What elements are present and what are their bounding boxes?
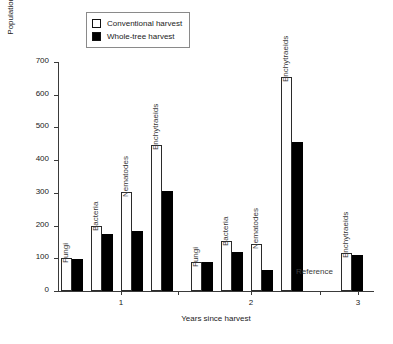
bar-conventional — [221, 241, 232, 291]
y-axis-tick: 400 — [54, 160, 58, 161]
x-axis-tick-label: 1 — [106, 298, 136, 307]
legend-item-conventional: Conventional harvest — [92, 17, 182, 30]
y-axis-tick-label: 400 — [23, 154, 49, 163]
y-axis-tick-label: 0 — [23, 285, 49, 294]
bar-conventional — [251, 244, 262, 291]
y-axis-tick: 0 — [54, 291, 58, 292]
bar-category-label: Bacteria — [91, 201, 100, 230]
reference-annotation: Reference — [296, 267, 333, 276]
bar-conventional — [281, 77, 292, 291]
y-axis-tick-label: 300 — [23, 187, 49, 196]
bar-conventional — [151, 145, 162, 291]
y-axis-label: Population relative to reference (%) — [4, 0, 18, 88]
legend-swatch-conventional-icon — [92, 19, 101, 28]
x-axis-line — [58, 291, 374, 292]
bar-whole-tree — [132, 231, 143, 291]
chart-figure: Conventional harvest Whole-tree harvest … — [0, 0, 393, 344]
plot-area: 0100200300400500600700 123 FungiBacteria… — [58, 62, 374, 291]
bar-category-label: Nematodes — [121, 156, 130, 197]
y-axis-tick-label: 500 — [23, 121, 49, 130]
y-axis-tick: 100 — [54, 258, 58, 259]
bar-category-label: Fungi — [191, 247, 200, 267]
y-axis-tick: 700 — [54, 62, 58, 63]
legend-label-whole-tree: Whole-tree harvest — [107, 32, 175, 42]
legend-item-whole-tree: Whole-tree harvest — [92, 30, 182, 43]
chart-legend: Conventional harvest Whole-tree harvest — [86, 12, 190, 48]
bar-whole-tree — [352, 255, 363, 291]
y-axis-tick-label: 200 — [23, 220, 49, 229]
bar-category-label: Nematodes — [251, 208, 260, 249]
x-axis-tick — [358, 291, 359, 295]
bar-category-label: Bacteria — [221, 217, 230, 246]
bar-whole-tree — [162, 191, 173, 291]
x-axis-tick — [121, 291, 122, 295]
x-axis-group-separator — [178, 291, 179, 295]
x-axis-group-separator — [320, 291, 321, 295]
y-axis-tick: 500 — [54, 127, 58, 128]
bar-conventional — [341, 253, 352, 291]
bar-whole-tree — [232, 252, 243, 291]
y-axis-tick: 600 — [54, 95, 58, 96]
y-axis-line — [58, 62, 59, 291]
x-axis-tick-label: 2 — [236, 298, 266, 307]
y-axis-tick-label: 600 — [23, 89, 49, 98]
bar-category-label: Enchytraeids — [151, 104, 160, 150]
bar-whole-tree — [72, 259, 83, 291]
bar-category-label: Enchytraeids — [341, 212, 350, 258]
x-axis-label: Years since harvest — [58, 314, 374, 323]
bar-whole-tree — [202, 262, 213, 291]
bar-conventional — [121, 192, 132, 291]
bar-category-label: Enchytraeids — [281, 36, 290, 82]
legend-label-conventional: Conventional harvest — [107, 19, 182, 29]
y-axis-tick: 200 — [54, 226, 58, 227]
legend-swatch-whole-tree-icon — [92, 32, 101, 41]
bar-category-label: Fungi — [61, 243, 70, 263]
bar-conventional — [91, 226, 102, 291]
y-axis-tick: 300 — [54, 193, 58, 194]
x-axis-tick-label: 3 — [343, 298, 373, 307]
y-axis-tick-label: 100 — [23, 252, 49, 261]
x-axis-tick — [251, 291, 252, 295]
bar-conventional — [61, 258, 72, 291]
bar-whole-tree — [262, 270, 273, 291]
y-axis-tick-label: 700 — [23, 56, 49, 65]
bar-whole-tree — [102, 234, 113, 291]
